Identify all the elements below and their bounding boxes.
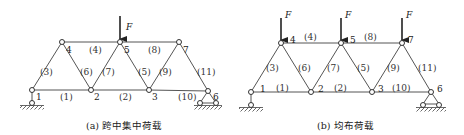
node-label-4: 4 (290, 35, 296, 45)
load-arrows-b: F F F (281, 10, 413, 40)
node-label-3: 3 (378, 84, 384, 94)
member-3 (32, 42, 62, 90)
node-3 (370, 90, 375, 95)
member-label-10: (10) (392, 83, 410, 93)
force-label: F (125, 22, 133, 32)
node-7 (400, 41, 405, 46)
node-4 (279, 41, 284, 46)
node-6 (206, 89, 211, 94)
node-3 (147, 88, 152, 93)
member-label-6: (6) (80, 67, 93, 77)
member-label-7: (7) (327, 63, 340, 73)
member-label-1: (1) (276, 83, 289, 93)
node-2 (309, 90, 314, 95)
member-label-5: (5) (138, 67, 151, 77)
members-a (32, 42, 208, 91)
member-10 (149, 90, 208, 91)
node-6 (429, 90, 434, 95)
member-label-9: (9) (387, 63, 400, 73)
truss-figures: F 1 2 3 4 5 6 7 (1) (2) (3) (4) (5) (6) … (0, 0, 464, 135)
force-label-4: F (284, 10, 292, 20)
member-label-4: (4) (89, 45, 102, 55)
member-label-5: (5) (357, 63, 370, 73)
member-label-2: (2) (334, 83, 347, 93)
node-1 (30, 88, 35, 93)
member-label-3: (3) (40, 67, 53, 77)
member-label-2: (2) (119, 92, 132, 102)
node-label-5: 5 (350, 35, 356, 45)
node-label-2: 2 (318, 84, 324, 94)
node-label-6: 6 (213, 92, 219, 102)
member-label-7: (7) (102, 67, 115, 77)
node-label-1: 1 (36, 92, 42, 102)
caption-b: (b) 均布荷载 (317, 120, 374, 131)
force-label-5: F (344, 10, 352, 20)
member-label-8: (8) (148, 45, 161, 55)
node-7 (177, 40, 182, 45)
node-label-4: 4 (66, 45, 72, 55)
member-label-9: (9) (159, 67, 172, 77)
truss-a: F 1 2 3 4 5 6 7 (1) (2) (3) (4) (5) (6) … (20, 16, 222, 131)
node-label-2: 2 (94, 92, 100, 102)
node-4 (60, 40, 65, 45)
node-label-3: 3 (152, 92, 158, 102)
node-2 (89, 88, 94, 93)
node-label-1: 1 (260, 84, 266, 94)
node-label-5: 5 (124, 45, 130, 55)
member-label-3: (3) (266, 63, 279, 73)
member-label-4: (4) (304, 32, 317, 42)
node-label-6: 6 (437, 84, 443, 94)
node-5 (118, 40, 123, 45)
load-arrow-a: F (120, 16, 133, 39)
node-label-7: 7 (183, 45, 189, 55)
node-label-7: 7 (408, 35, 414, 45)
member-label-1: (1) (60, 92, 73, 102)
member-label-6: (6) (298, 63, 311, 73)
force-label-7: F (405, 10, 413, 20)
member-label-10: (10) (178, 92, 196, 102)
node-5 (339, 41, 344, 46)
member-label-11: (11) (418, 63, 436, 73)
member-label-8: (8) (364, 32, 377, 42)
truss-b: F F F 1 2 3 4 5 6 7 (1) (2) (3) (4) (5) … (239, 10, 446, 131)
node-1 (249, 90, 254, 95)
caption-a: (a) 跨中集中荷载 (86, 120, 162, 131)
member-label-11: (11) (197, 67, 215, 77)
